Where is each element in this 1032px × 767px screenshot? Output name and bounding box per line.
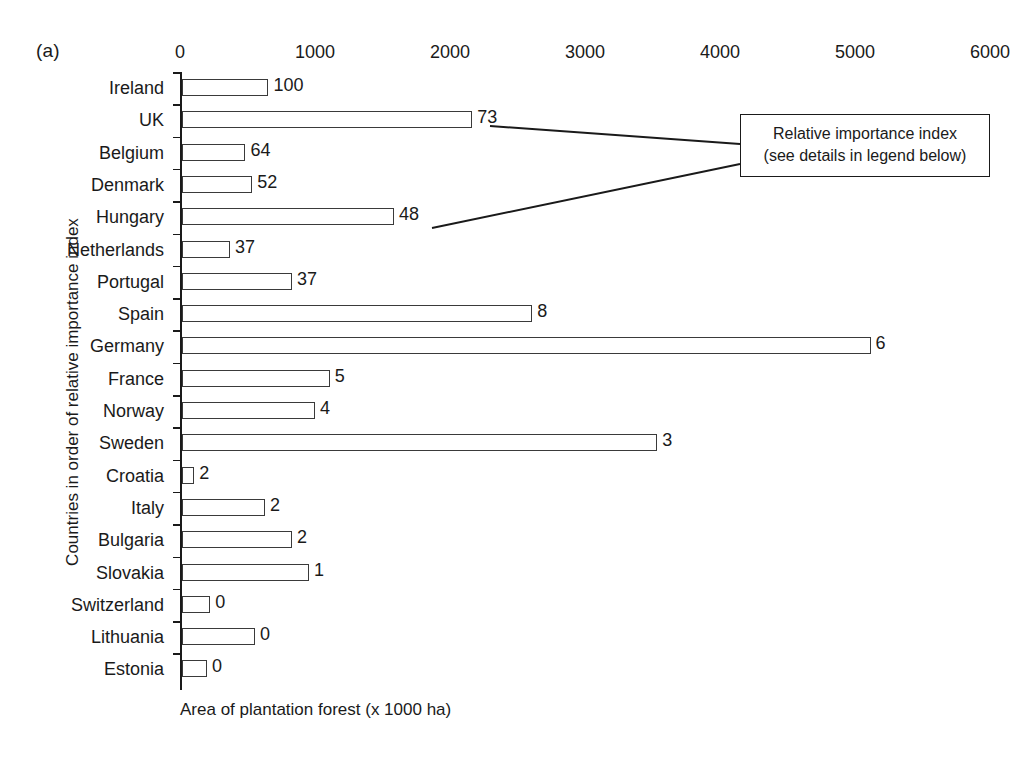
bar-value-label: 37 [235, 237, 255, 258]
callout-line-2: (see details in legend below) [751, 145, 979, 167]
bar-row: 2 [180, 492, 990, 524]
bar-row: 48 [180, 201, 990, 233]
category-tick-mark [173, 492, 180, 494]
category-label: France [108, 369, 164, 389]
x-tick-label: 2000 [430, 42, 470, 63]
category-label: Spain [118, 304, 164, 324]
bar-value-label: 0 [212, 656, 222, 677]
category-label: Bulgaria [98, 530, 164, 550]
category-tick-mark [173, 201, 180, 203]
category-tick-mark [173, 169, 180, 171]
category-label: Estonia [104, 659, 164, 679]
bar [182, 434, 657, 451]
bar [182, 564, 309, 581]
category-tick-mark [173, 266, 180, 268]
bar-row: 1 [180, 557, 990, 589]
bar-value-label: 2 [297, 527, 307, 548]
bar-value-label: 37 [297, 269, 317, 290]
bar-value-label: 6 [876, 333, 886, 354]
bar-value-label: 52 [257, 172, 277, 193]
category-tick-mark [173, 234, 180, 236]
category-tick-mark [173, 621, 180, 623]
bar-value-label: 64 [250, 140, 270, 161]
x-tick-label: 6000 [970, 42, 1010, 63]
bar [182, 176, 252, 193]
bar [182, 531, 292, 548]
bar-value-label: 4 [320, 398, 330, 419]
bar-row: 2 [180, 460, 990, 492]
bar-value-label: 0 [215, 592, 225, 613]
bar [182, 241, 230, 258]
bar [182, 660, 207, 677]
bar-value-label: 3 [662, 430, 672, 451]
bar [182, 370, 330, 387]
category-tick-mark [173, 72, 180, 74]
bar-row: 8 [180, 298, 990, 330]
bar [182, 79, 268, 96]
bar-row: 0 [180, 621, 990, 653]
category-label: Lithuania [91, 627, 164, 647]
category-axis-labels: IrelandUKBelgiumDenmarkHungaryNetherland… [0, 72, 172, 690]
category-tick-mark [173, 298, 180, 300]
bar-row: 5 [180, 363, 990, 395]
category-tick-mark [173, 104, 180, 106]
category-tick-mark [173, 395, 180, 397]
bar [182, 305, 532, 322]
figure-bar-chart: (a) Countries in order of relative impor… [0, 0, 1032, 767]
bar [182, 628, 255, 645]
category-tick-mark [173, 363, 180, 365]
bar [182, 499, 265, 516]
x-tick-label: 4000 [700, 42, 740, 63]
category-tick-mark [173, 427, 180, 429]
bar-value-label: 1 [314, 560, 324, 581]
category-label: Sweden [99, 433, 164, 453]
x-axis-title: Area of plantation forest (x 1000 ha) [180, 700, 451, 720]
bar-row: 37 [180, 266, 990, 298]
callout-box: Relative importance index (see details i… [740, 114, 990, 177]
category-tick-mark [173, 589, 180, 591]
category-label: Norway [103, 401, 164, 421]
category-label: Switzerland [71, 595, 164, 615]
category-tick-mark [173, 557, 180, 559]
category-tick-mark [173, 137, 180, 139]
bar [182, 337, 871, 354]
bar-row: 4 [180, 395, 990, 427]
category-label: Hungary [96, 207, 164, 227]
x-tick-label: 1000 [295, 42, 335, 63]
bar-row: 6 [180, 330, 990, 362]
category-tick-mark [173, 460, 180, 462]
bar [182, 111, 472, 128]
bar-value-label: 2 [199, 463, 209, 484]
bar-value-label: 8 [537, 301, 547, 322]
x-tick-label: 5000 [835, 42, 875, 63]
bar-value-label: 48 [399, 204, 419, 225]
category-label: Portugal [97, 272, 164, 292]
bar [182, 596, 210, 613]
bar-row: 3 [180, 427, 990, 459]
bar [182, 273, 292, 290]
category-label: UK [139, 110, 164, 130]
category-tick-mark [173, 524, 180, 526]
category-label: Slovakia [96, 563, 164, 583]
bar-row: 2 [180, 524, 990, 556]
category-tick-mark [173, 330, 180, 332]
bar [182, 208, 394, 225]
category-label: Croatia [106, 466, 164, 486]
category-tick-mark [173, 653, 180, 655]
x-axis-tick-labels: 0100020003000400050006000 [0, 42, 1032, 66]
bar-value-label: 100 [273, 75, 303, 96]
callout-line-1: Relative importance index [751, 123, 979, 145]
bar-value-label: 2 [270, 495, 280, 516]
bar-row: 0 [180, 589, 990, 621]
bar [182, 144, 245, 161]
bar-value-label: 73 [477, 107, 497, 128]
bar-row: 100 [180, 72, 990, 104]
bar [182, 402, 315, 419]
category-label: Belgium [99, 143, 164, 163]
bar [182, 467, 194, 484]
bar-row: 37 [180, 234, 990, 266]
x-tick-label: 0 [175, 42, 185, 63]
category-label: Ireland [109, 78, 164, 98]
bar-value-label: 5 [335, 366, 345, 387]
bar-row: 0 [180, 653, 990, 685]
